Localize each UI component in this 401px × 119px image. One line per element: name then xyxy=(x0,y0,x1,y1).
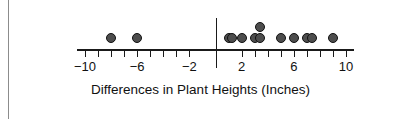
data-dot xyxy=(307,33,317,43)
axis-tick xyxy=(124,51,125,57)
axis-tick xyxy=(333,51,334,57)
tick-label: 6 xyxy=(290,59,297,74)
axis-tick xyxy=(176,51,177,57)
axis-tick xyxy=(307,51,308,57)
axis-tick xyxy=(346,51,347,57)
data-dot xyxy=(276,33,286,43)
data-dot xyxy=(328,33,338,43)
tick-label: −2 xyxy=(182,59,197,74)
axis-tick xyxy=(111,51,112,57)
axis-tick xyxy=(320,51,321,57)
dot-plot-figure: −10−6−22610 Differences in Plant Heights… xyxy=(0,0,401,119)
tick-label: −10 xyxy=(74,59,96,74)
zero-reference-line xyxy=(216,18,217,68)
axis-tick xyxy=(137,51,138,57)
axis-tick xyxy=(150,51,151,57)
axis-tick xyxy=(294,51,295,57)
axis-tick xyxy=(163,51,164,57)
data-dot xyxy=(255,22,265,32)
tick-label: −6 xyxy=(130,59,145,74)
number-line-plot: −10−6−22610 xyxy=(0,0,401,119)
data-dot xyxy=(106,33,116,43)
axis-tick xyxy=(268,51,269,57)
axis-tick xyxy=(255,51,256,57)
axis-tick xyxy=(189,51,190,57)
data-dot xyxy=(289,33,299,43)
data-dot xyxy=(255,33,265,43)
tick-label: 2 xyxy=(238,59,245,74)
tick-label: 10 xyxy=(339,59,353,74)
data-dot xyxy=(132,33,142,43)
data-dot xyxy=(237,33,247,43)
axis-tick xyxy=(98,51,99,57)
axis-tick xyxy=(85,51,86,57)
axis-title: Differences in Plant Heights (Inches) xyxy=(0,82,401,97)
axis-tick xyxy=(281,51,282,57)
axis-tick xyxy=(242,51,243,57)
